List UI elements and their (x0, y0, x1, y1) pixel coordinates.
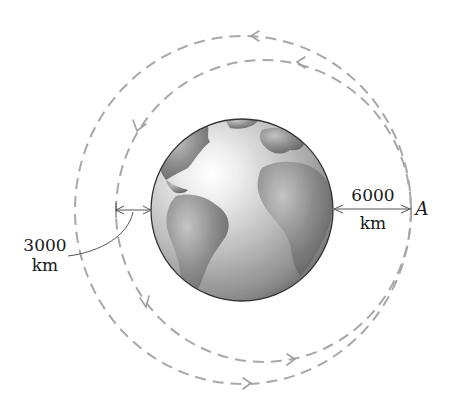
point-a-marker (410, 208, 412, 210)
orbit-arrow-icon (297, 57, 305, 68)
label-point-a: A (414, 199, 430, 218)
dimension-3000km (68, 203, 151, 256)
leader-line (68, 212, 133, 256)
label-6000: 6000 (348, 186, 398, 205)
orbit-diagram: 3000 km 6000 km A (0, 0, 449, 410)
label-3000-unit: km (20, 256, 70, 275)
dimension-6000km (334, 205, 410, 213)
diagram-canvas (0, 0, 449, 410)
label-3000: 3000 (20, 236, 70, 255)
label-6000-unit: km (348, 214, 398, 233)
earth-globe (151, 117, 333, 301)
orbit-arrow-icon (243, 378, 251, 389)
